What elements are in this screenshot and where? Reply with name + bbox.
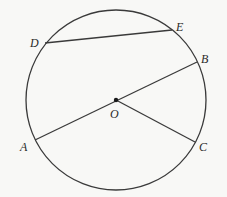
circle-diagram: D E B O A C [0, 0, 227, 197]
label-b: B [201, 52, 209, 66]
label-d: D [29, 36, 39, 50]
label-c: C [199, 140, 208, 154]
radius-oc [116, 100, 195, 142]
label-e: E [175, 20, 184, 34]
center-point-dot [114, 98, 118, 102]
label-o: O [110, 107, 119, 121]
label-a: A [19, 140, 28, 154]
chord-de [45, 30, 172, 43]
